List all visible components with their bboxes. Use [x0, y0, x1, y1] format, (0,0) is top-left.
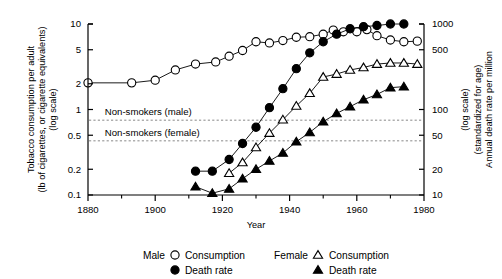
marker-open-circle: [128, 79, 136, 87]
marker-filled-circle: [208, 167, 216, 175]
y-axis-title-left-line2: (lb of cigarettes, or cigarette equivale…: [37, 27, 47, 193]
marker-filled-circle: [319, 38, 327, 46]
legend-group-male: Male: [143, 250, 165, 261]
marker-open-circle: [386, 36, 394, 44]
marker-open-circle: [151, 76, 159, 84]
marker-filled-circle: [333, 30, 341, 38]
marker-filled-circle: [306, 49, 314, 57]
marker-filled-circle: [238, 139, 246, 147]
y-ticklabel-right: 100: [432, 104, 448, 115]
x-axis-title: Year: [247, 220, 266, 230]
legend-label-male-death-rate: Death rate: [185, 265, 233, 276]
y-ticklabel-left: 0.5: [68, 130, 81, 141]
y-ticklabel-left: 0.1: [68, 189, 81, 200]
marker-open-circle: [171, 66, 179, 74]
y-axis-title-left-line3: (log scale): [48, 88, 58, 130]
marker-open-circle: [319, 30, 327, 38]
marker-filled-circle: [292, 65, 300, 73]
tobacco-consumption-death-rate-chart: Non-smokers (male)Non-smokers (female) 0…: [0, 0, 502, 279]
y-axis-title-right-line2: (standardized for age): [473, 65, 483, 155]
x-ticklabel: 1940: [279, 204, 300, 215]
marker-filled-circle: [400, 20, 408, 28]
marker-open-circle: [373, 32, 381, 40]
y-ticklabel-left: 1: [76, 104, 81, 115]
marker-open-circle: [292, 33, 300, 41]
y-ticklabel-left: 10: [70, 18, 81, 29]
y-ticklabel-right: 10: [432, 189, 443, 200]
marker-open-circle: [225, 52, 233, 60]
legend-label-female-consumption: Consumption: [329, 250, 389, 261]
x-ticklabel: 1900: [145, 204, 166, 215]
y-axis-title-right-line1: Annual death rate per million: [484, 51, 494, 168]
x-ticklabel: 1960: [346, 204, 367, 215]
legend-marker-filled-circle: [171, 266, 179, 274]
legend-label-male-consumption: Consumption: [185, 250, 245, 261]
marker-filled-circle: [191, 167, 199, 175]
x-ticklabel: 1980: [413, 204, 434, 215]
marker-open-circle: [400, 38, 408, 46]
y-axis-title-left-line1: Tobacco consumption per adult: [26, 45, 36, 173]
legend-marker-open-circle: [171, 251, 179, 259]
marker-open-circle: [191, 60, 199, 68]
marker-filled-circle: [373, 21, 381, 29]
y-ticklabel-right: 500: [432, 44, 448, 55]
marker-open-circle: [252, 38, 260, 46]
marker-open-circle: [238, 46, 246, 54]
marker-filled-circle: [265, 104, 273, 112]
y-ticklabel-right: 1000: [432, 18, 453, 29]
marker-open-circle: [413, 37, 421, 45]
y-ticklabel-left: 0.2: [68, 164, 81, 175]
y-ticklabel-right: 50: [432, 130, 443, 141]
marker-filled-circle: [252, 123, 260, 131]
marker-open-circle: [212, 58, 220, 66]
x-ticklabel: 1920: [212, 204, 233, 215]
x-ticklabel: 1880: [77, 204, 98, 215]
marker-open-circle: [265, 39, 273, 47]
marker-filled-circle: [225, 155, 233, 163]
y-axis-title-right-line3: (log scale): [460, 88, 470, 130]
marker-open-circle: [306, 33, 314, 41]
marker-filled-circle: [346, 25, 354, 33]
reference-label-non-smokers-male: Non-smokers (male): [105, 106, 192, 117]
y-ticklabel-left: 5: [76, 44, 81, 55]
chart-figure: Non-smokers (male)Non-smokers (female) 0…: [0, 0, 502, 279]
marker-filled-circle: [386, 20, 394, 28]
marker-filled-circle: [359, 23, 367, 31]
marker-open-circle: [279, 36, 287, 44]
reference-label-non-smokers-female: Non-smokers (female): [105, 127, 200, 138]
marker-filled-circle: [279, 85, 287, 93]
y-ticklabel-right: 20: [432, 164, 443, 175]
y-ticklabel-left: 2: [76, 78, 81, 89]
legend-label-female-death-rate: Death rate: [329, 265, 377, 276]
legend-group-female: Female: [274, 250, 308, 261]
